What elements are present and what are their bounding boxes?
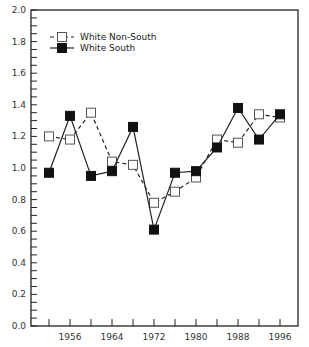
- x-axis-ticks: [49, 319, 280, 326]
- plot-border: [31, 10, 298, 326]
- series-line: [49, 108, 280, 230]
- data-point-marker: [45, 132, 54, 141]
- filled-square-icon: [58, 44, 67, 53]
- y-tick-label: 1.0: [12, 163, 27, 173]
- y-axis-ticks: [31, 10, 37, 326]
- plot-frame: [31, 10, 298, 326]
- data-point-marker: [213, 143, 222, 152]
- legend-item: White South: [50, 43, 135, 53]
- legend: White Non-SouthWhite South: [50, 32, 156, 53]
- y-tick-label: 0.0: [12, 321, 27, 331]
- data-point-marker: [171, 187, 180, 196]
- data-point-marker: [255, 110, 264, 119]
- data-point-marker: [234, 103, 243, 112]
- legend-label: White Non-South: [80, 32, 156, 42]
- y-tick-label: 0.8: [12, 195, 27, 205]
- legend-item: White Non-South: [50, 32, 156, 42]
- data-point-marker: [66, 111, 75, 120]
- data-point-marker: [255, 135, 264, 144]
- data-point-marker: [192, 167, 201, 176]
- line-chart: 0.00.20.40.60.81.01.21.41.61.82.0 195619…: [0, 0, 309, 347]
- series-line: [49, 113, 280, 203]
- data-point-marker: [150, 225, 159, 234]
- x-tick-label: 1988: [227, 332, 250, 342]
- data-point-marker: [150, 198, 159, 207]
- data-point-marker: [66, 135, 75, 144]
- y-tick-label: 1.6: [12, 68, 27, 78]
- y-tick-label: 0.2: [12, 289, 26, 299]
- data-point-marker: [45, 168, 54, 177]
- data-point-marker: [108, 167, 117, 176]
- x-tick-label: 1972: [143, 332, 166, 342]
- y-tick-label: 2.0: [12, 5, 27, 15]
- data-point-marker: [87, 171, 96, 180]
- data-point-marker: [276, 110, 285, 119]
- x-axis-tick-labels: 195619641972198019881996: [59, 332, 292, 342]
- x-tick-label: 1996: [269, 332, 292, 342]
- x-tick-label: 1980: [185, 332, 208, 342]
- y-tick-label: 0.4: [12, 258, 27, 268]
- legend-label: White South: [80, 43, 135, 53]
- y-tick-label: 0.6: [12, 226, 27, 236]
- series-white-south: [45, 103, 285, 234]
- y-tick-label: 1.2: [12, 131, 26, 141]
- y-tick-label: 1.4: [12, 100, 27, 110]
- y-tick-label: 1.8: [12, 37, 27, 47]
- x-tick-label: 1956: [59, 332, 82, 342]
- data-point-marker: [129, 160, 138, 169]
- data-point-marker: [171, 168, 180, 177]
- y-axis-tick-labels: 0.00.20.40.60.81.01.21.41.61.82.0: [12, 5, 27, 331]
- data-point-marker: [129, 122, 138, 131]
- x-tick-label: 1964: [101, 332, 124, 342]
- data-series: [45, 103, 285, 234]
- data-point-marker: [87, 108, 96, 117]
- data-point-marker: [234, 138, 243, 147]
- hollow-square-icon: [58, 33, 67, 42]
